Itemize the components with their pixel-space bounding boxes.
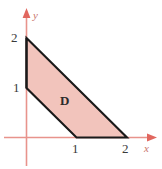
- y-axis-label: y: [33, 10, 38, 21]
- y-tick-label-2: 2: [11, 31, 18, 44]
- x-axis-label: x: [144, 143, 149, 154]
- y-tick-label-1: 1: [13, 81, 20, 94]
- y-axis-arrowhead: [23, 8, 31, 18]
- figure-region-d: 2 1 1 2 x y D: [0, 0, 162, 169]
- x-axis-arrowhead: [147, 134, 157, 142]
- shaded-region-d: [27, 38, 128, 138]
- x-tick-label-1: 1: [72, 142, 79, 155]
- coordinate-plot-svg: [0, 0, 162, 169]
- region-label-d: D: [60, 94, 69, 107]
- x-tick-label-2: 2: [122, 142, 129, 155]
